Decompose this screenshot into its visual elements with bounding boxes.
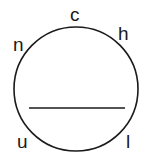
- label-l: l: [126, 131, 130, 152]
- label-h: h: [118, 23, 129, 44]
- circle-diagram: c h n u l: [0, 0, 149, 163]
- label-c: c: [70, 4, 80, 25]
- circle: [14, 27, 138, 151]
- label-u: u: [17, 131, 28, 152]
- label-n: n: [13, 34, 24, 55]
